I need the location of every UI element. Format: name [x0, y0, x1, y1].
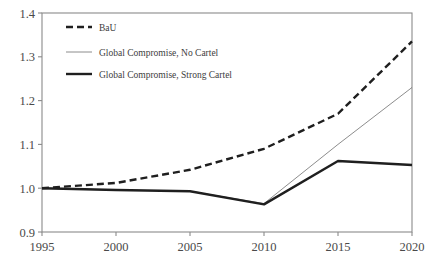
- legend-label-1: BaU: [99, 23, 117, 33]
- y-tick-label: 1.2: [19, 94, 35, 108]
- chart-canvas: 0.91.01.11.21.31.4 199520002005201020152…: [0, 0, 435, 263]
- y-tick-label: 1.4: [19, 7, 35, 21]
- y-axis-ticks: [38, 13, 42, 232]
- x-tick-label: 2005: [178, 240, 203, 254]
- plot-area-border: [42, 13, 412, 232]
- x-axis-ticks: [42, 232, 412, 236]
- y-tick-label: 1.3: [19, 50, 35, 64]
- series-line-1: [42, 41, 412, 188]
- legend-label-3: Global Compromise, Strong Cartel: [99, 70, 232, 80]
- chart-legend: BaUGlobal Compromise, No CartelGlobal Co…: [66, 23, 232, 80]
- line-chart: 0.91.01.11.21.31.4 199520002005201020152…: [0, 0, 435, 263]
- data-series-layer: [42, 41, 412, 204]
- x-tick-label: 2000: [104, 240, 129, 254]
- series-line-3: [42, 161, 412, 204]
- y-axis-tick-labels: 0.91.01.11.21.31.4: [19, 7, 35, 240]
- x-axis-tick-labels: 199520002005201020152020: [30, 240, 425, 254]
- x-tick-label: 2020: [400, 240, 425, 254]
- x-tick-label: 2015: [326, 240, 351, 254]
- legend-label-2: Global Compromise, No Cartel: [99, 48, 219, 58]
- y-tick-label: 0.9: [19, 226, 35, 240]
- x-tick-label: 1995: [30, 240, 55, 254]
- x-tick-label: 2010: [252, 240, 277, 254]
- y-tick-label: 1.1: [19, 138, 35, 152]
- plot-frame: [42, 13, 412, 232]
- y-tick-label: 1.0: [19, 182, 35, 196]
- series-line-2: [42, 87, 412, 203]
